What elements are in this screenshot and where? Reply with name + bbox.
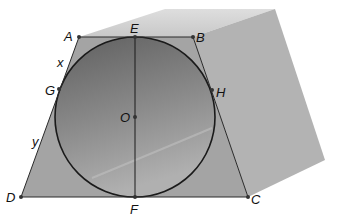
label-h: H — [216, 85, 226, 100]
label-y: y — [31, 134, 40, 149]
point-a — [77, 35, 81, 39]
point-b — [191, 35, 195, 39]
label-b: B — [196, 30, 205, 45]
label-g: G — [45, 83, 55, 98]
point-c — [246, 195, 250, 199]
label-a: A — [63, 29, 73, 44]
geometry-diagram: A E B x G H O y D F C — [0, 0, 344, 224]
label-o: O — [120, 110, 130, 125]
point-d — [19, 195, 23, 199]
point-o — [133, 115, 137, 119]
label-c: C — [251, 192, 261, 207]
point-g — [57, 87, 61, 91]
label-e: E — [130, 21, 139, 36]
label-f: F — [130, 202, 139, 217]
point-h — [210, 88, 214, 92]
label-x: x — [56, 55, 64, 70]
label-d: D — [6, 190, 15, 205]
point-f — [133, 195, 137, 199]
